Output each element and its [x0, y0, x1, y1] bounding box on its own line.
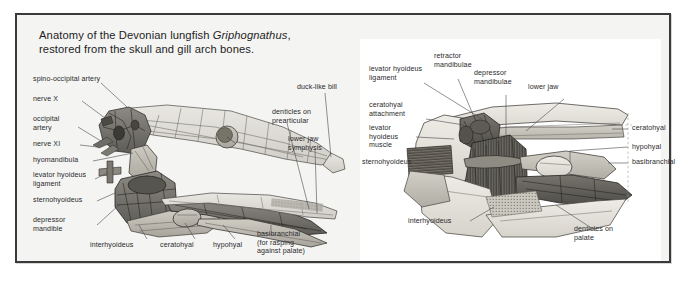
left-illustration-panel: spino-occipital artery nerve X occipital… [35, 53, 353, 261]
label-sternohyoideus: sternohyoideus [33, 196, 83, 205]
label-r-ceratohyal-attachment: ceratohyal attachment [369, 101, 405, 118]
figure-frame: Anatomy of the Devonian lungfish Griphog… [15, 13, 671, 263]
label-lower-jaw-symphysis: lower jaw symphysis [288, 135, 322, 152]
label-nerve-x: nerve X [33, 95, 58, 104]
label-r-levator-hyoideus-muscle: levator hyoideus muscle [369, 124, 398, 150]
label-r-lower-jaw: lower jaw [528, 83, 558, 92]
right-illustration-panel: levator hyoideus ligament retractor mand… [360, 39, 661, 261]
label-denticles-on-prearticular: denticles on prearticular [272, 108, 311, 125]
label-spino-occipital-artery: spino-occipital artery [33, 75, 100, 84]
label-r-denticles-on-palate: denticles on palate [574, 225, 613, 242]
label-basibranchial: basibranchial (for rasping against palat… [257, 230, 305, 256]
label-occipital-artery: occipital artery [33, 115, 60, 132]
label-r-basibranchial: basibranchial [632, 158, 675, 167]
label-interhyoideus: interhyoideus [90, 241, 134, 250]
caption-text-part1: Anatomy of the Devonian lungfish [39, 29, 213, 41]
label-duck-like-bill: duck-like bill [297, 83, 337, 92]
label-hypohyal: hypohyal [213, 241, 242, 250]
label-r-sternohyoideus: sternohyoideus [362, 158, 412, 167]
label-r-ceratohyal: ceratohyal [632, 124, 666, 133]
label-hyomandibula: hyomandibula [33, 156, 78, 165]
figure-caption: Anatomy of the Devonian lungfish Griphog… [39, 28, 339, 56]
caption-text-part2: , [287, 29, 290, 41]
label-r-hypohyal: hypohyal [632, 143, 661, 152]
label-r-depressor-mandibulae: depressor mandibulae [474, 69, 512, 86]
label-r-retractor-mandibulae: retractor mandibulae [434, 52, 472, 69]
label-nerve-xi: nerve XI [33, 140, 60, 149]
label-depressor-mandible: depressor mandible [33, 216, 65, 233]
label-ceratohyal: ceratohyal [160, 241, 194, 250]
label-r-interhyoideus: interhyoideus [408, 217, 452, 226]
label-levator-hyoideus-ligament: levator hyoideus ligament [33, 171, 86, 188]
caption-genus-name: Griphognathus [213, 29, 288, 41]
label-r-levator-hyoideus-ligament: levator hyoideus ligament [369, 65, 422, 82]
